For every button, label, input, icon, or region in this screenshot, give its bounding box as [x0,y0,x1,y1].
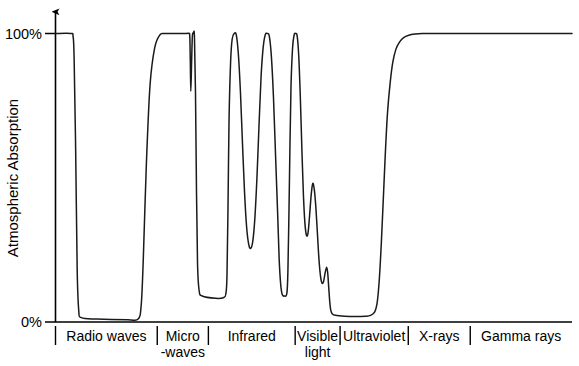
absorption-curve [56,31,573,320]
category-label-infrared: Infrared [228,328,276,344]
category-label-line2: -waves [161,344,205,360]
category-label-gamma-rays: Gamma rays [481,328,561,344]
category-label-radio-waves: Radio waves [66,328,146,344]
category-label-micro: Micro [166,328,200,344]
y-tick-label-0: 0% [21,314,42,330]
category-label-line2: light [305,344,331,360]
category-label-ultraviolet: Ultraviolet [343,328,405,344]
y-tick-label-100: 100% [5,26,42,42]
atmospheric-absorption-chart: 100% 0% Atmospheric Absorption Radio wav… [0,0,579,366]
category-labels: Radio wavesMicro-wavesInfraredVisiblelig… [66,328,561,360]
category-label-visible: Visible [297,328,338,344]
chart-canvas: 100% 0% Atmospheric Absorption Radio wav… [0,0,579,366]
y-axis-title: Atmospheric Absorption [4,99,21,257]
category-label-x-rays: X-rays [419,328,459,344]
